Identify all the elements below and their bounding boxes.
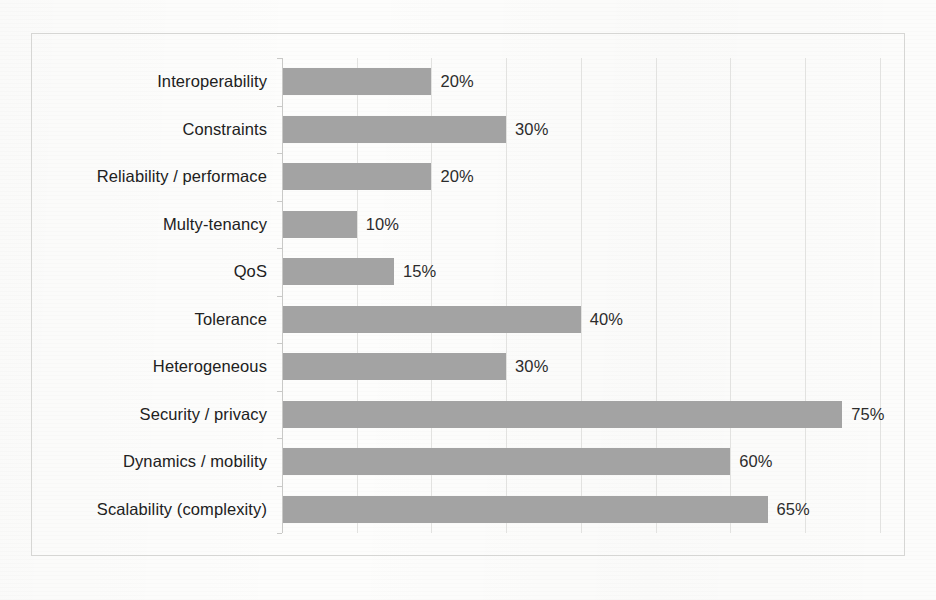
bar-value-label: 40%	[590, 310, 623, 329]
bar-value-label: 20%	[440, 72, 473, 91]
plot-area: 20%30%20%10%15%40%30%75%60%65%	[282, 58, 905, 533]
y-axis-line	[282, 58, 283, 533]
y-axis-tick	[277, 58, 282, 59]
y-axis-tick	[277, 391, 282, 392]
category-label: Tolerance	[32, 296, 275, 344]
bar-row[interactable]: 75%	[282, 391, 905, 439]
bar-value-label: 75%	[851, 405, 884, 424]
bar[interactable]	[282, 68, 431, 95]
category-label: Scalability (complexity)	[32, 486, 275, 534]
y-axis-tick	[277, 106, 282, 107]
bar[interactable]	[282, 258, 394, 285]
category-label: Dynamics / mobility	[32, 438, 275, 486]
category-label: Heterogeneous	[32, 343, 275, 391]
bar-row[interactable]: 65%	[282, 486, 905, 534]
y-axis-tick	[277, 486, 282, 487]
bar-value-label: 30%	[515, 120, 548, 139]
bar[interactable]	[282, 448, 730, 475]
chart-frame: InteroperabilityConstraintsReliability /…	[31, 33, 905, 556]
bar-row[interactable]: 60%	[282, 438, 905, 486]
y-axis-tick	[277, 533, 282, 534]
bar-value-label: 20%	[440, 167, 473, 186]
bar-row[interactable]: 40%	[282, 296, 905, 344]
bar-series: 20%30%20%10%15%40%30%75%60%65%	[282, 58, 905, 533]
bar-row[interactable]: 15%	[282, 248, 905, 296]
bar-value-label: 15%	[403, 262, 436, 281]
bar[interactable]	[282, 306, 581, 333]
category-label: Constraints	[32, 106, 275, 154]
bar-value-label: 30%	[515, 357, 548, 376]
bar-row[interactable]: 20%	[282, 153, 905, 201]
y-axis-tick	[277, 248, 282, 249]
bar-row[interactable]: 30%	[282, 106, 905, 154]
bar-row[interactable]: 30%	[282, 343, 905, 391]
bar[interactable]	[282, 211, 357, 238]
bar-value-label: 60%	[739, 452, 772, 471]
bar-value-label: 10%	[366, 215, 399, 234]
bar-row[interactable]: 20%	[282, 58, 905, 106]
y-axis-tick	[277, 153, 282, 154]
category-label: Multy-tenancy	[32, 201, 275, 249]
bar-row[interactable]: 10%	[282, 201, 905, 249]
bar[interactable]	[282, 163, 431, 190]
bar[interactable]	[282, 401, 842, 428]
bar-value-label: 65%	[777, 500, 810, 519]
category-label: QoS	[32, 248, 275, 296]
y-axis-tick	[277, 438, 282, 439]
category-label: Interoperability	[32, 58, 275, 106]
y-axis-tick	[277, 201, 282, 202]
y-axis-tick	[277, 343, 282, 344]
bar[interactable]	[282, 496, 768, 523]
category-label: Security / privacy	[32, 391, 275, 439]
y-axis-tick	[277, 296, 282, 297]
bar[interactable]	[282, 353, 506, 380]
bar[interactable]	[282, 116, 506, 143]
y-axis-category-labels: InteroperabilityConstraintsReliability /…	[32, 58, 275, 533]
category-label: Reliability / performace	[32, 153, 275, 201]
